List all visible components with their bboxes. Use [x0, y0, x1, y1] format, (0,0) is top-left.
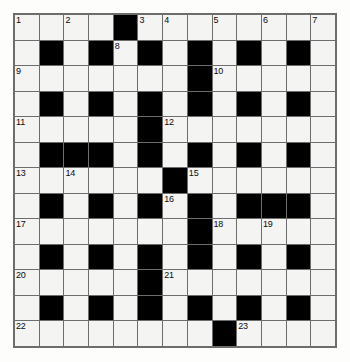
- crossword-cell[interactable]: [311, 117, 335, 142]
- crossword-cell[interactable]: 11: [15, 117, 39, 142]
- crossword-cell[interactable]: [213, 270, 237, 295]
- crossword-cell[interactable]: [311, 270, 335, 295]
- crossword-cell[interactable]: 18: [213, 219, 237, 244]
- crossword-cell[interactable]: [15, 143, 39, 168]
- crossword-cell[interactable]: [64, 321, 88, 346]
- crossword-cell[interactable]: [213, 194, 237, 219]
- crossword-cell[interactable]: [163, 41, 187, 66]
- crossword-cell[interactable]: [311, 143, 335, 168]
- crossword-cell[interactable]: 2: [64, 15, 88, 40]
- crossword-cell[interactable]: [163, 296, 187, 321]
- crossword-cell[interactable]: [262, 168, 286, 193]
- crossword-cell[interactable]: [40, 321, 64, 346]
- crossword-cell[interactable]: 16: [163, 194, 187, 219]
- crossword-cell[interactable]: 14: [64, 168, 88, 193]
- crossword-cell[interactable]: [262, 66, 286, 91]
- crossword-cell[interactable]: [138, 66, 162, 91]
- crossword-cell[interactable]: [64, 270, 88, 295]
- crossword-cell[interactable]: [64, 245, 88, 270]
- crossword-cell[interactable]: 8: [114, 41, 138, 66]
- crossword-cell[interactable]: [40, 117, 64, 142]
- crossword-cell[interactable]: [311, 245, 335, 270]
- crossword-cell[interactable]: 20: [15, 270, 39, 295]
- crossword-cell[interactable]: 22: [15, 321, 39, 346]
- crossword-cell[interactable]: [163, 219, 187, 244]
- crossword-cell[interactable]: [114, 117, 138, 142]
- crossword-cell[interactable]: [89, 66, 113, 91]
- crossword-cell[interactable]: [15, 41, 39, 66]
- crossword-cell[interactable]: [64, 66, 88, 91]
- crossword-cell[interactable]: [213, 92, 237, 117]
- crossword-cell[interactable]: [64, 92, 88, 117]
- crossword-cell[interactable]: [15, 245, 39, 270]
- crossword-cell[interactable]: [64, 219, 88, 244]
- crossword-cell[interactable]: [213, 245, 237, 270]
- crossword-cell[interactable]: [213, 41, 237, 66]
- crossword-cell[interactable]: 4: [163, 15, 187, 40]
- crossword-cell[interactable]: [64, 41, 88, 66]
- crossword-cell[interactable]: [15, 194, 39, 219]
- crossword-cell[interactable]: [213, 143, 237, 168]
- crossword-cell[interactable]: [114, 92, 138, 117]
- crossword-cell[interactable]: [89, 321, 113, 346]
- crossword-cell[interactable]: 10: [213, 66, 237, 91]
- crossword-cell[interactable]: [237, 219, 261, 244]
- crossword-cell[interactable]: [262, 245, 286, 270]
- crossword-cell[interactable]: [40, 270, 64, 295]
- crossword-grid[interactable]: 1234567891011121314151617181920212223: [13, 13, 337, 348]
- crossword-cell[interactable]: [287, 270, 311, 295]
- crossword-cell[interactable]: [311, 168, 335, 193]
- crossword-cell[interactable]: [40, 66, 64, 91]
- crossword-cell[interactable]: [237, 117, 261, 142]
- crossword-cell[interactable]: [262, 270, 286, 295]
- crossword-cell[interactable]: [237, 168, 261, 193]
- crossword-cell[interactable]: [89, 15, 113, 40]
- crossword-cell[interactable]: [114, 168, 138, 193]
- crossword-cell[interactable]: [40, 219, 64, 244]
- crossword-cell[interactable]: 19: [262, 219, 286, 244]
- crossword-cell[interactable]: [64, 296, 88, 321]
- crossword-cell[interactable]: [188, 117, 212, 142]
- crossword-cell[interactable]: [163, 245, 187, 270]
- crossword-cell[interactable]: 7: [311, 15, 335, 40]
- crossword-cell[interactable]: [138, 168, 162, 193]
- crossword-cell[interactable]: [287, 321, 311, 346]
- crossword-cell[interactable]: [287, 15, 311, 40]
- crossword-cell[interactable]: 17: [15, 219, 39, 244]
- crossword-cell[interactable]: [188, 321, 212, 346]
- crossword-cell[interactable]: [237, 66, 261, 91]
- crossword-cell[interactable]: 5: [213, 15, 237, 40]
- crossword-cell[interactable]: [40, 15, 64, 40]
- crossword-cell[interactable]: [188, 270, 212, 295]
- crossword-cell[interactable]: [15, 92, 39, 117]
- crossword-cell[interactable]: [89, 270, 113, 295]
- crossword-cell[interactable]: [114, 245, 138, 270]
- crossword-cell[interactable]: [311, 41, 335, 66]
- crossword-cell[interactable]: [287, 66, 311, 91]
- crossword-cell[interactable]: [287, 219, 311, 244]
- crossword-cell[interactable]: [213, 168, 237, 193]
- crossword-cell[interactable]: [114, 219, 138, 244]
- crossword-cell[interactable]: [138, 219, 162, 244]
- crossword-cell[interactable]: [64, 117, 88, 142]
- crossword-cell[interactable]: [311, 92, 335, 117]
- crossword-cell[interactable]: [163, 66, 187, 91]
- crossword-cell[interactable]: [213, 117, 237, 142]
- crossword-cell[interactable]: [287, 117, 311, 142]
- crossword-cell[interactable]: [311, 66, 335, 91]
- crossword-cell[interactable]: [89, 117, 113, 142]
- crossword-cell[interactable]: [64, 194, 88, 219]
- crossword-cell[interactable]: [89, 168, 113, 193]
- crossword-cell[interactable]: 13: [15, 168, 39, 193]
- crossword-cell[interactable]: [262, 117, 286, 142]
- crossword-cell[interactable]: [114, 143, 138, 168]
- crossword-cell[interactable]: 23: [237, 321, 261, 346]
- crossword-cell[interactable]: [114, 321, 138, 346]
- crossword-cell[interactable]: [138, 321, 162, 346]
- crossword-cell[interactable]: [163, 321, 187, 346]
- crossword-cell[interactable]: [114, 296, 138, 321]
- crossword-cell[interactable]: [40, 168, 64, 193]
- crossword-cell[interactable]: [114, 194, 138, 219]
- crossword-cell[interactable]: [262, 296, 286, 321]
- crossword-cell[interactable]: [262, 41, 286, 66]
